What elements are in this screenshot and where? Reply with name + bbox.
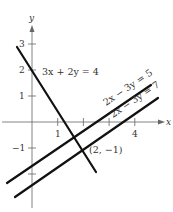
x-axis-label: x (166, 117, 171, 127)
label-3x-plus-2y-eq-4: 3x + 2y = 4 (42, 66, 99, 77)
intersection-point-label: (2, −1) (89, 144, 123, 155)
y-tick-label-3: 3 (19, 39, 25, 49)
y-axis-arrow-icon (30, 25, 35, 32)
line-2x-minus-3y-eq-7 (15, 98, 158, 197)
x-axis-arrow-icon (158, 120, 165, 125)
graph: 1 4 3 2 1 −1 x y 3x + 2y = 4 2x − 3y = 5… (0, 0, 173, 212)
axes (2, 30, 160, 208)
y-tick-label-neg1: −1 (12, 143, 25, 153)
y-tick-label-1: 1 (19, 91, 25, 101)
y-tick-label-2: 2 (19, 65, 25, 75)
x-tick-label-4: 4 (132, 129, 138, 139)
x-tick-label-1: 1 (55, 129, 61, 139)
y-axis-label: y (28, 13, 35, 23)
